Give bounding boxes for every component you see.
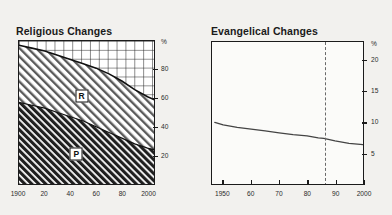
y-tick-label: 15 [371, 87, 378, 94]
x-tick-label: 90 [332, 190, 339, 197]
y-axis-unit-label: % [371, 40, 377, 47]
y-tick-label: 10 [371, 118, 378, 125]
y-tick-label: 20 [161, 152, 168, 159]
chart-title-religious: Religious Changes [16, 25, 112, 37]
x-tickmark [222, 180, 223, 185]
x-tick-label: 70 [275, 190, 282, 197]
y-tickmark [153, 69, 158, 70]
x-tickmark [251, 180, 252, 185]
chart-panel-evangelical: Evangelical Changes 5101520%195060708090… [196, 0, 392, 215]
screenshot-root: Religious Changes RP 20406080%1900204060… [0, 0, 392, 215]
y-tickmark [362, 60, 367, 61]
y-tickmark [153, 98, 158, 99]
x-tickmark [307, 180, 308, 185]
y-tickmark [153, 156, 158, 157]
y-axis-unit-label: % [161, 38, 167, 45]
x-tick-label: 1950 [215, 190, 230, 197]
y-tick-label: 5 [371, 150, 375, 157]
region-label-p: P [70, 148, 83, 161]
y-tick-label: 20 [371, 56, 378, 63]
x-tickmark [279, 180, 280, 185]
x-tick-label: 60 [93, 190, 100, 197]
y-tickmark [362, 91, 367, 92]
religious-area-svg [19, 41, 154, 184]
region-label-r: R [75, 90, 88, 103]
chart-title-evangelical: Evangelical Changes [211, 25, 318, 37]
x-tick-label: 40 [67, 190, 74, 197]
x-tick-label: 80 [119, 190, 126, 197]
y-tick-label: 60 [161, 94, 168, 101]
x-tick-label: 20 [40, 190, 47, 197]
evangelical-line-svg [212, 42, 363, 184]
x-tickmark [336, 180, 337, 185]
plot-area-religious: RP [18, 40, 155, 185]
y-tickmark [153, 127, 158, 128]
x-tick-label: 1900 [11, 190, 26, 197]
chart-panel-religious: Religious Changes RP 20406080%1900204060… [0, 0, 196, 215]
y-tick-label: 80 [161, 65, 168, 72]
plot-area-evangelical [211, 41, 364, 185]
reference-vline [325, 42, 326, 185]
y-tickmark [362, 154, 367, 155]
x-tickmark [364, 180, 365, 185]
x-tick-label: 60 [247, 190, 254, 197]
y-tick-label: 40 [161, 123, 168, 130]
evangelical-trend-line [215, 122, 363, 144]
x-tick-label: 2000 [141, 190, 156, 197]
x-tick-label: 2000 [357, 190, 372, 197]
y-tickmark [362, 122, 367, 123]
x-tick-label: 80 [304, 190, 311, 197]
